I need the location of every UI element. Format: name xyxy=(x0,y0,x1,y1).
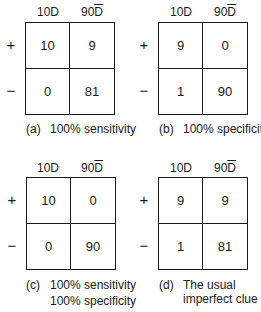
column-header-diseased-text: 10D xyxy=(37,5,59,19)
column-header-diseased: 10D xyxy=(26,6,70,18)
column-header-diseased-text: 10D xyxy=(170,5,192,19)
row-label-positive: + xyxy=(4,38,18,52)
column-header-not-diseased: 90D xyxy=(203,162,247,174)
cell-positive-diseased: 9 xyxy=(159,178,203,224)
column-header-diseased: 10D xyxy=(159,6,203,18)
column-header-not-diseased: 90D xyxy=(203,6,247,18)
row-label-negative: − xyxy=(137,84,151,98)
column-header-count: 90 xyxy=(81,5,94,19)
row-label-positive: + xyxy=(137,38,151,52)
d-bar-symbol: D xyxy=(94,161,103,175)
cell-negative-not-diseased: 81 xyxy=(70,69,114,115)
caption-line-1: 100% specificity xyxy=(183,122,261,136)
d-bar-symbol: D xyxy=(227,161,236,175)
panel-caption: (a)100% sensitivity xyxy=(26,122,136,136)
caption-line-2: 100% specificity xyxy=(26,294,136,308)
caption-line-1: The usual xyxy=(183,278,236,292)
d-bar-symbol: D xyxy=(227,5,236,19)
column-header-not-diseased: 90D xyxy=(70,6,114,18)
column-header-count: 90 xyxy=(81,161,94,175)
column-header-diseased-text: 10D xyxy=(37,161,59,175)
row-label-negative: − xyxy=(137,239,151,253)
column-header-diseased: 10D xyxy=(26,162,70,174)
caption-line-1: 100% sensitivity xyxy=(50,278,136,292)
row-label-negative: − xyxy=(4,84,18,98)
cell-positive-not-diseased: 0 xyxy=(71,178,115,224)
column-header-count: 90 xyxy=(214,5,227,19)
caption-line-1: 100% sensitivity xyxy=(50,122,136,136)
cell-negative-not-diseased: 81 xyxy=(203,224,247,270)
cell-positive-diseased: 9 xyxy=(159,23,203,69)
panel-caption: (c)100% sensitivity 100% specificity xyxy=(26,278,136,308)
panel-tag: (c) xyxy=(26,278,50,292)
contingency-table: 10 0 0 90 xyxy=(26,177,116,270)
column-header-count: 90 xyxy=(214,161,227,175)
row-label-positive: + xyxy=(137,193,151,207)
cell-negative-diseased: 1 xyxy=(159,224,203,270)
contingency-table: 9 0 1 90 xyxy=(158,22,248,115)
row-label-positive: + xyxy=(5,193,19,207)
row-label-negative: − xyxy=(5,239,19,253)
cell-negative-not-diseased: 90 xyxy=(203,69,247,115)
cell-negative-diseased: 0 xyxy=(27,224,71,270)
panel-caption: (b)100% specificity xyxy=(159,122,261,136)
contingency-table: 10 9 0 81 xyxy=(25,22,115,115)
column-header-diseased-text: 10D xyxy=(170,161,192,175)
panel-caption: (d)The usual imperfect clue xyxy=(159,278,258,306)
cell-negative-diseased: 0 xyxy=(26,69,70,115)
caption-line-2: imperfect clue xyxy=(159,292,258,306)
panel-tag: (d) xyxy=(159,278,183,292)
cell-negative-not-diseased: 90 xyxy=(71,224,115,270)
column-header-diseased: 10D xyxy=(159,162,203,174)
d-bar-symbol: D xyxy=(94,5,103,19)
panel-tag: (a) xyxy=(26,122,50,136)
cell-positive-not-diseased: 9 xyxy=(203,178,247,224)
cell-positive-diseased: 10 xyxy=(26,23,70,69)
panel-tag: (b) xyxy=(159,122,183,136)
cell-negative-diseased: 1 xyxy=(159,69,203,115)
cell-positive-not-diseased: 9 xyxy=(70,23,114,69)
cell-positive-not-diseased: 0 xyxy=(203,23,247,69)
column-header-not-diseased: 90D xyxy=(70,162,114,174)
contingency-table: 9 9 1 81 xyxy=(158,177,248,270)
cell-positive-diseased: 10 xyxy=(27,178,71,224)
